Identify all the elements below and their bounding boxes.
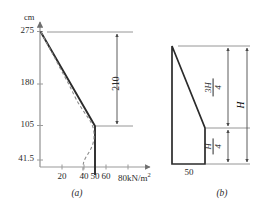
panel-a-caption: (a)	[62, 189, 92, 199]
x-axis-unit-exponent: 2	[148, 171, 151, 178]
panel-a-axes	[37, 22, 150, 170]
pressure-diagram-figure: cm 275 180 105 41.5 20 40 50 60 80kN/m2 …	[0, 0, 267, 212]
y-tick-label-275: 275	[8, 26, 34, 35]
theoretical-pressure-envelope	[41, 32, 96, 176]
y-tick-label-105: 105	[8, 120, 34, 129]
y-axis-unit-label: cm	[24, 13, 34, 22]
dimension-label-210: 210	[112, 67, 122, 91]
measured-pressure-curve	[41, 32, 94, 175]
dimension-label-h-total: H	[236, 98, 246, 112]
y-tick-label-41-5: 41.5	[4, 154, 34, 163]
x-tick-label-60: 60	[98, 172, 114, 181]
panel-b-base-value: 50	[179, 168, 199, 177]
y-tick-label-180: 180	[8, 78, 34, 87]
panel-a-curves	[41, 32, 96, 176]
panel-b-caption: (b)	[207, 189, 237, 199]
x-axis-unit-text: 80kN/m	[118, 173, 148, 183]
fraction-3h-over-4: 3H 4	[204, 78, 223, 96]
fraction-h-over-4: H 4	[204, 138, 223, 154]
x-axis-unit-label: 80kN/m2	[118, 172, 151, 183]
x-tick-label-20: 20	[54, 172, 70, 181]
panel-b-outline	[172, 46, 205, 164]
fraction-h-denominator: 4	[214, 138, 223, 154]
panel-b-pressure-block	[172, 46, 205, 164]
fraction-3h-denominator: 4	[214, 78, 223, 96]
